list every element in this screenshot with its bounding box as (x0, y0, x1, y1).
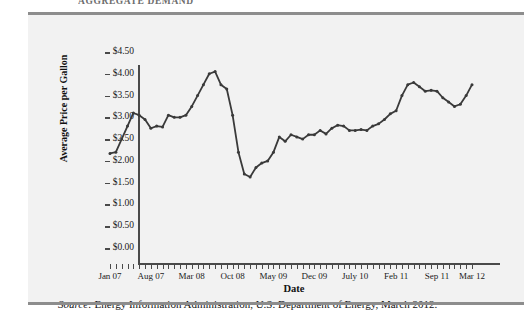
data-point-marker (184, 114, 187, 117)
data-point-marker (336, 124, 339, 127)
data-point-marker (319, 129, 322, 132)
price-polyline (110, 72, 472, 177)
data-point-marker (383, 118, 386, 121)
chart-panel: $0.00$0.50$1.00$1.50$2.00$2.50$3.00$3.50… (28, 15, 524, 302)
data-point-marker (190, 105, 193, 108)
data-point-marker (325, 132, 328, 135)
data-point-marker (365, 129, 368, 132)
data-point-marker (237, 151, 240, 154)
data-point-marker (400, 94, 403, 97)
data-point-marker (371, 125, 374, 128)
data-point-marker (354, 129, 357, 132)
data-point-marker (395, 109, 398, 112)
data-point-marker (126, 125, 129, 128)
data-point-marker (441, 96, 444, 99)
data-point-marker (120, 138, 123, 141)
data-point-marker (465, 94, 468, 97)
data-point-marker (342, 125, 345, 128)
data-point-marker (179, 116, 182, 119)
data-point-marker (249, 176, 252, 179)
data-point-marker (114, 151, 117, 154)
data-point-marker (208, 72, 211, 75)
data-point-marker (266, 159, 269, 162)
data-point-marker (424, 90, 427, 93)
figure-top-title: AGGREGATE DEMAND (78, 0, 338, 8)
data-point-marker (219, 83, 222, 86)
data-point-marker (348, 129, 351, 132)
data-point-marker (196, 94, 199, 97)
data-point-marker (418, 85, 421, 88)
bottom-rule (28, 302, 524, 305)
data-point-marker (295, 135, 298, 138)
data-point-marker (161, 125, 164, 128)
data-point-marker (313, 133, 316, 136)
data-point-marker (254, 166, 257, 169)
data-point-marker (225, 88, 228, 91)
data-point-marker (290, 133, 293, 136)
data-point-marker (412, 81, 415, 84)
data-point-marker (278, 135, 281, 138)
data-point-marker (430, 89, 433, 92)
price-line-series (28, 15, 524, 302)
data-point-marker (132, 111, 135, 114)
data-point-marker (471, 83, 474, 86)
data-point-marker (284, 140, 287, 143)
data-point-marker (459, 103, 462, 106)
data-point-marker (214, 70, 217, 73)
data-point-marker (377, 122, 380, 125)
data-point-marker (272, 151, 275, 154)
data-point-marker (109, 152, 112, 155)
data-point-marker (167, 114, 170, 117)
data-point-marker (406, 83, 409, 86)
data-point-marker (301, 138, 304, 141)
data-point-marker (173, 116, 176, 119)
x-axis-title: Date (28, 283, 532, 294)
data-point-marker (144, 118, 147, 121)
data-point-marker (307, 133, 310, 136)
figure-container: AGGREGATE DEMAND $0.00$0.50$1.00$1.50$2.… (0, 0, 532, 315)
data-point-marker (155, 125, 158, 128)
data-point-marker (260, 162, 263, 165)
data-point-marker (231, 114, 234, 117)
data-point-marker (389, 112, 392, 115)
data-point-marker (330, 127, 333, 130)
data-point-marker (435, 90, 438, 93)
data-point-marker (138, 114, 141, 117)
data-point-marker (202, 83, 205, 86)
data-point-marker (149, 127, 152, 130)
data-point-marker (360, 128, 363, 131)
data-point-marker (447, 101, 450, 104)
data-point-marker (243, 172, 246, 175)
data-point-marker (453, 105, 456, 108)
